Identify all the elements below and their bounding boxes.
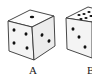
pip — [78, 35, 81, 39]
pip — [25, 32, 28, 36]
die-a-front-face — [8, 21, 34, 60]
pip — [82, 13, 85, 15]
pip — [84, 17, 87, 19]
pip — [13, 41, 16, 45]
die-a-label: A — [29, 65, 37, 76]
pip — [79, 18, 82, 20]
die-a — [8, 10, 55, 60]
dice-figure — [0, 0, 92, 79]
pip — [87, 11, 90, 13]
pip — [77, 14, 80, 16]
pip — [13, 28, 16, 32]
die-b-label: B — [87, 65, 92, 76]
pip — [30, 16, 34, 19]
die-b — [66, 7, 92, 58]
pip — [72, 27, 75, 31]
pip — [26, 46, 29, 50]
pip — [84, 45, 87, 49]
